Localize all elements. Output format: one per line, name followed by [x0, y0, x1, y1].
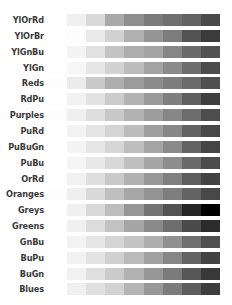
colormap-swatch: [124, 109, 143, 121]
colormap-swatch: [105, 236, 124, 248]
colormap-swatch: [124, 14, 143, 26]
colormap-swatch: [124, 188, 143, 200]
colormap-gradient-bar: [48, 77, 220, 89]
colormap-swatch: [144, 157, 163, 169]
colormap-row: Oranges: [0, 187, 232, 201]
colormap-swatch: [201, 14, 220, 26]
colormap-gradient-bar: [48, 93, 220, 105]
colormap-swatch: [86, 204, 105, 216]
colormap-row: BuPu: [0, 251, 232, 265]
colormap-swatch: [48, 46, 67, 58]
colormap-gradient-bar: [48, 141, 220, 153]
colormap-swatch: [163, 125, 182, 137]
colormap-reference-figure: YlOrRdYlOrBrYlGnBuYlGnRedsRdPuPurplesPuR…: [0, 0, 232, 305]
colormap-swatch: [48, 220, 67, 232]
colormap-swatch: [105, 157, 124, 169]
colormap-swatch: [67, 141, 86, 153]
colormap-swatch: [182, 109, 201, 121]
colormap-swatch: [144, 109, 163, 121]
colormap-swatch: [163, 30, 182, 42]
colormap-swatch: [105, 77, 124, 89]
colormap-swatch: [144, 220, 163, 232]
colormap-swatch: [144, 173, 163, 185]
colormap-swatch: [163, 157, 182, 169]
colormap-row: YlGnBu: [0, 45, 232, 59]
colormap-swatch: [124, 236, 143, 248]
colormap-row: Greens: [0, 219, 232, 233]
colormap-swatch: [67, 62, 86, 74]
colormap-row: OrRd: [0, 172, 232, 186]
colormap-swatch: [144, 93, 163, 105]
colormap-swatch: [201, 173, 220, 185]
colormap-swatch: [48, 14, 67, 26]
colormap-swatch: [163, 220, 182, 232]
colormap-swatch: [182, 46, 201, 58]
colormap-swatch: [201, 125, 220, 137]
colormap-gradient-bar: [48, 188, 220, 200]
colormap-swatch: [144, 204, 163, 216]
colormap-row-label: Greys: [0, 203, 48, 217]
colormap-gradient-bar: [48, 236, 220, 248]
colormap-swatch: [105, 220, 124, 232]
colormap-swatch: [163, 283, 182, 295]
colormap-swatch: [182, 268, 201, 280]
colormap-swatch: [67, 93, 86, 105]
colormap-swatch: [48, 157, 67, 169]
colormap-swatch: [48, 125, 67, 137]
colormap-swatch: [201, 77, 220, 89]
colormap-row-label: YlGnBu: [0, 45, 48, 59]
colormap-swatch: [48, 188, 67, 200]
colormap-swatch: [163, 109, 182, 121]
colormap-swatch: [105, 46, 124, 58]
colormap-swatch: [105, 188, 124, 200]
colormap-swatch: [182, 157, 201, 169]
colormap-row: YlOrBr: [0, 29, 232, 43]
colormap-swatch: [48, 62, 67, 74]
colormap-swatch: [105, 252, 124, 264]
colormap-gradient-bar: [48, 157, 220, 169]
colormap-swatch: [182, 188, 201, 200]
colormap-swatch: [201, 62, 220, 74]
colormap-row: Greys: [0, 203, 232, 217]
colormap-swatch: [86, 125, 105, 137]
colormap-row: PuBuGn: [0, 140, 232, 154]
colormap-swatch: [124, 77, 143, 89]
colormap-swatch: [201, 188, 220, 200]
colormap-swatch: [201, 30, 220, 42]
colormap-row-label: PuBuGn: [0, 140, 48, 154]
colormap-swatch: [124, 93, 143, 105]
colormap-swatch: [124, 204, 143, 216]
colormap-swatch: [105, 62, 124, 74]
colormap-row-label: RdPu: [0, 92, 48, 106]
colormap-swatch: [163, 188, 182, 200]
colormap-swatch: [182, 77, 201, 89]
colormap-swatch: [182, 252, 201, 264]
colormap-swatch: [105, 283, 124, 295]
colormap-swatch: [67, 77, 86, 89]
colormap-swatch: [86, 173, 105, 185]
colormap-gradient-bar: [48, 125, 220, 137]
colormap-swatch: [105, 268, 124, 280]
colormap-swatch: [144, 268, 163, 280]
colormap-swatch: [144, 188, 163, 200]
colormap-swatch: [86, 188, 105, 200]
colormap-row-label: PuBu: [0, 156, 48, 170]
colormap-swatch: [163, 204, 182, 216]
colormap-swatch: [48, 109, 67, 121]
colormap-swatch: [67, 283, 86, 295]
colormap-row-label: OrRd: [0, 172, 48, 186]
colormap-swatch: [124, 141, 143, 153]
colormap-swatch: [182, 14, 201, 26]
colormap-row: Reds: [0, 76, 232, 90]
colormap-swatch: [67, 204, 86, 216]
colormap-swatch: [86, 109, 105, 121]
colormap-swatch: [105, 14, 124, 26]
colormap-swatch: [124, 173, 143, 185]
colormap-swatch: [201, 93, 220, 105]
colormap-swatch: [144, 30, 163, 42]
colormap-swatch: [144, 46, 163, 58]
colormap-swatch: [86, 46, 105, 58]
colormap-swatch: [163, 236, 182, 248]
colormap-row: PuRd: [0, 124, 232, 138]
colormap-row-label: BuPu: [0, 251, 48, 265]
